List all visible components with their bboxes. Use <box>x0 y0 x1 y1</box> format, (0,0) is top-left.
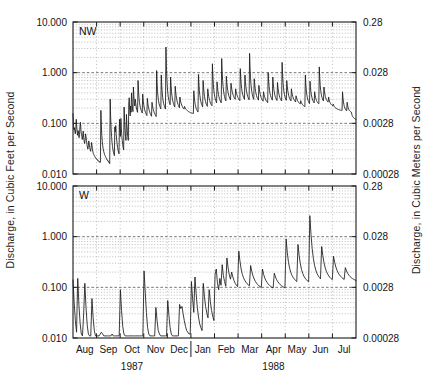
month-label: Apr <box>266 344 282 355</box>
month-label: Jan <box>195 344 211 355</box>
x-axis: AugSepOctNovDecJanFebMarAprMayJunJul1987… <box>76 341 351 372</box>
month-label: Nov <box>147 344 165 355</box>
month-label: Dec <box>170 344 188 355</box>
ytick-label-left: 1.000 <box>42 231 67 242</box>
month-label: Oct <box>124 344 140 355</box>
plot-background <box>73 22 356 174</box>
panel-nw: 10.0001.0000.1000.0100.280.0280.00280.00… <box>36 17 399 180</box>
ytick-label-right: 0.0028 <box>363 282 394 293</box>
ytick-label-left: 0.010 <box>42 333 67 344</box>
panel-w: 10.0001.0000.1000.0100.280.0280.00280.00… <box>36 181 399 344</box>
right-axis-title: Discharge, in Cubic Meters per Second <box>410 86 422 274</box>
ytick-label-right: 0.28 <box>363 17 383 28</box>
month-label: Jul <box>338 344 351 355</box>
ytick-label-left: 0.100 <box>42 282 67 293</box>
panel-label-w: W <box>79 189 89 201</box>
month-label: May <box>288 344 307 355</box>
ytick-label-left: 1.000 <box>42 67 67 78</box>
figure-root: 10.0001.0000.1000.0100.280.0280.00280.00… <box>0 0 429 383</box>
chart-svg: 10.0001.0000.1000.0100.280.0280.00280.00… <box>0 0 429 383</box>
ytick-label-left: 0.010 <box>42 169 67 180</box>
ytick-label-left: 0.100 <box>42 118 67 129</box>
year-label: 1987 <box>121 361 144 372</box>
ytick-label-right: 0.028 <box>363 67 388 78</box>
year-label: 1988 <box>262 361 285 372</box>
panel-label-nw: NW <box>79 25 97 37</box>
month-label: Mar <box>241 344 259 355</box>
ytick-label-left: 10.000 <box>36 17 67 28</box>
left-axis-title: Discharge, in Cubic Feet per Second <box>4 92 16 269</box>
month-label: Sep <box>99 344 117 355</box>
ytick-label-right: 0.028 <box>363 231 388 242</box>
ytick-label-left: 10.000 <box>36 181 67 192</box>
ytick-label-right: 0.00028 <box>363 169 400 180</box>
ytick-label-right: 0.0028 <box>363 118 394 129</box>
ytick-label-right: 0.28 <box>363 181 383 192</box>
ytick-label-right: 0.00028 <box>363 333 400 344</box>
month-label: Feb <box>218 344 236 355</box>
month-label: Jun <box>313 344 329 355</box>
month-label: Aug <box>76 344 94 355</box>
